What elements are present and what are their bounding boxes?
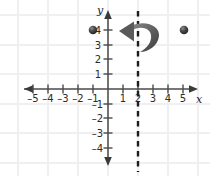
x-tick-label: –2 [72,93,83,104]
x-tick-label: 4 [165,93,171,104]
x-tick-label: 3 [150,93,156,104]
rotation-arrow-icon [119,22,159,53]
x-tick-label: 5 [180,93,186,104]
y-tick-label: –2 [92,113,103,124]
y-tick-label: 2 [95,54,101,65]
y-axis-label: y [96,4,104,17]
x-axis-label: x [196,93,203,106]
x-tick-label: 1 [120,93,126,104]
x-tick-label: –4 [42,93,53,104]
point-marker [180,26,189,35]
coordinate-plane-figure: –5 –4 –3 –2 –1 1 2 3 4 5 4 3 2 1 –1 –2 –… [0,0,210,176]
x-tick-label: –5 [27,93,38,104]
x-tick-labels: –5 –4 –3 –2 –1 1 2 3 4 5 [27,93,186,104]
point-marker [89,26,98,35]
y-tick-label: 1 [95,69,101,80]
y-axis [104,10,113,166]
y-tick-label: –1 [92,99,103,110]
y-tick-label: –4 [92,143,103,154]
x-tick-label: –3 [57,93,68,104]
plot-area: –5 –4 –3 –2 –1 1 2 3 4 5 4 3 2 1 –1 –2 –… [0,0,210,176]
y-tick-label: –3 [92,128,103,139]
y-tick-label: 3 [95,40,101,51]
